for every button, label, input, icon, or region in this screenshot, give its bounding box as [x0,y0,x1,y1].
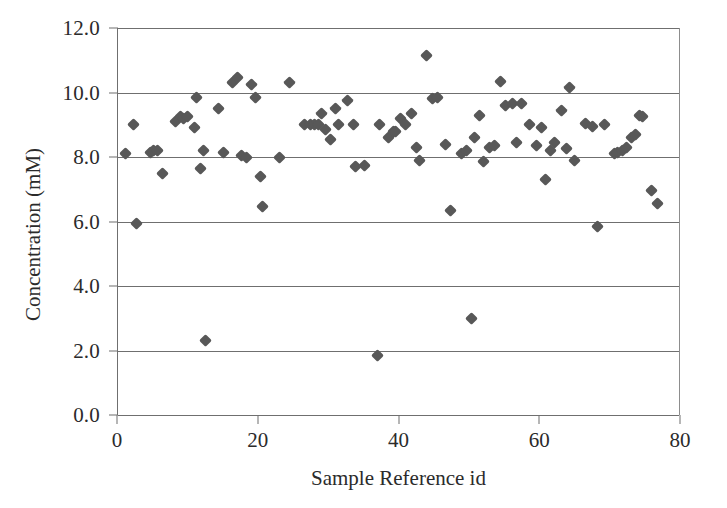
x-ticklabel-60: 60 [529,428,550,452]
y-ticklabel-6.0: 6.0 [73,211,100,232]
gridline-y-12.0 [118,28,679,29]
data-point [197,144,210,157]
y-ticklabel-2.0: 2.0 [73,340,100,361]
y-ticklabel-8.0: 8.0 [73,147,100,168]
gridline-y-2.0 [118,351,679,352]
scatter-chart-figure: 0.02.04.06.08.010.012.0 Concentration (m… [0,0,727,508]
y-ticklabel-12.0: 12.0 [62,18,100,39]
data-point [373,118,386,131]
x-ticklabel-20: 20 [247,428,268,452]
data-point [510,136,523,149]
x-tickmark-80 [680,415,681,424]
x-ticklabel-40: 40 [388,428,409,452]
data-point [421,49,434,62]
data-point [530,139,543,152]
data-point [333,118,346,131]
data-point [516,97,529,110]
data-point [119,147,132,160]
data-point [283,76,296,89]
y-ticklabel-4.0: 4.0 [73,276,100,297]
data-point [254,170,267,183]
data-point [329,102,342,115]
data-point [194,162,207,175]
y-axis-title: Concentration (mM) [21,25,46,445]
x-tickmark-20 [257,415,258,424]
data-point [212,102,225,115]
plot-area [117,28,680,415]
data-point [188,122,201,135]
data-point [468,131,481,144]
data-point [465,313,478,326]
x-axis-title: Sample Reference id [117,466,680,491]
data-point [473,109,486,122]
x-tickmark-0 [117,415,118,424]
data-point [358,159,371,172]
data-point [535,122,548,135]
data-point [444,204,457,217]
data-point [199,334,212,347]
data-point [540,173,553,186]
gridline-y-4.0 [118,286,679,287]
data-point [257,201,270,214]
y-ticklabel-0.0: 0.0 [73,405,100,426]
data-point [568,154,581,167]
x-ticklabel-80: 80 [670,428,691,452]
data-point [494,75,507,88]
data-point [645,184,658,197]
data-point [439,138,452,151]
gridline-y-8.0 [118,157,679,158]
x-ticklabel-0: 0 [112,428,123,452]
y-ticklabel-10.0: 10.0 [62,82,100,103]
data-point [405,107,418,120]
data-point [347,118,360,131]
x-tickmark-60 [539,415,540,424]
gridline-y-10.0 [118,93,679,94]
data-point [245,78,258,91]
x-tickmark-40 [398,415,399,424]
data-point [561,143,574,156]
data-point [651,197,664,210]
data-point [410,141,423,154]
data-point [341,94,354,107]
data-point [127,118,140,131]
y-axis: 0.02.04.06.08.010.012.0 [0,0,117,508]
data-point [130,217,143,230]
data-point [414,154,427,167]
data-point [156,167,169,180]
data-point [273,151,286,164]
data-point [555,104,568,117]
data-point [399,118,412,131]
data-point [599,118,612,131]
data-point [523,118,536,131]
